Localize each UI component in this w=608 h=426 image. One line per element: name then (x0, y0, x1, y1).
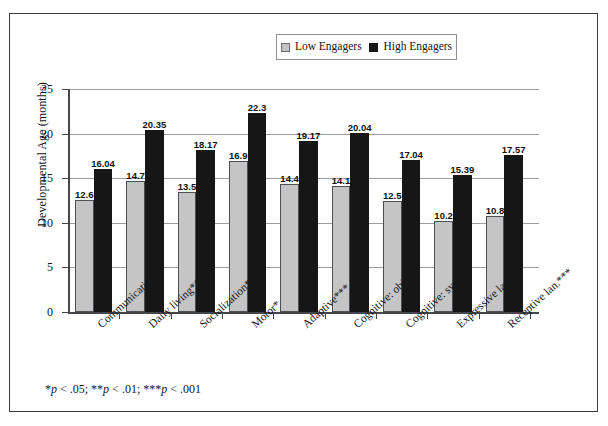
footnote-rest-2: < .01; (109, 382, 143, 396)
bar-value-label: 22.3 (248, 102, 267, 113)
plot-area: 0510152025 12.616.0414.720.3513.518.1716… (68, 89, 530, 312)
bar-value-label: 16.9 (229, 150, 248, 161)
y-axis-tick-label: 20 (41, 126, 53, 141)
bar-high-engagers: 19.17 (299, 141, 318, 312)
y-axis-tick-label: 15 (41, 171, 53, 186)
bar-high-engagers: 16.04 (94, 169, 113, 312)
bar-value-label: 20.35 (142, 119, 166, 130)
bar-value-label: 18.17 (194, 139, 218, 150)
bar-value-label: 20.04 (348, 122, 372, 133)
y-axis-tick-label: 5 (47, 260, 53, 275)
bar-high-engagers: 20.04 (350, 133, 369, 312)
legend-entry-high-engagers: High Engagers (369, 41, 452, 53)
bar-value-label: 16.04 (91, 158, 115, 169)
y-axis-tick-label: 10 (41, 215, 53, 230)
footnote-star-2: ** (91, 382, 103, 396)
figure-frame: Low Engagers High Engagers Developmental… (9, 13, 598, 412)
gridline (68, 89, 539, 90)
bar-value-label: 15.39 (450, 164, 474, 175)
bar-value-label: 14.7 (126, 170, 145, 181)
footnote-star-3: *** (143, 382, 161, 396)
y-axis-tick-label: 25 (41, 82, 53, 97)
bar-value-label: 14.1 (332, 175, 351, 186)
significance-footnote: *p < .05; **p < .01; ***p < .001 (45, 382, 201, 397)
bar-value-label: 13.5 (178, 181, 197, 192)
y-axis-tick-label: 0 (47, 305, 53, 320)
bar-high-engagers: 15.39 (453, 175, 472, 312)
bar-value-label: 12.5 (383, 190, 402, 201)
y-axis-line (68, 89, 70, 313)
legend-swatch-high-engagers (369, 43, 378, 52)
bar-value-label: 10.2 (434, 210, 453, 221)
legend-entry-low-engagers: Low Engagers (281, 41, 362, 53)
bar-value-label: 17.04 (399, 149, 423, 160)
legend-swatch-low-engagers (281, 43, 290, 52)
bar-high-engagers: 17.04 (402, 160, 421, 312)
bar-value-label: 14.4 (280, 173, 299, 184)
bar-value-label: 19.17 (296, 130, 320, 141)
chart-legend: Low Engagers High Engagers (276, 34, 457, 60)
bar-value-label: 10.8 (486, 205, 505, 216)
legend-label-low-engagers: Low Engagers (295, 41, 362, 53)
footnote-rest-3: < .001 (167, 382, 201, 396)
bar-low-engagers: 12.6 (75, 200, 94, 312)
footnote-rest-1: < .05; (57, 382, 91, 396)
bar-low-engagers: 14.4 (280, 184, 299, 312)
legend-label-high-engagers: High Engagers (383, 41, 452, 53)
bar-value-label: 12.6 (75, 189, 94, 200)
bar-value-label: 17.57 (502, 144, 526, 155)
